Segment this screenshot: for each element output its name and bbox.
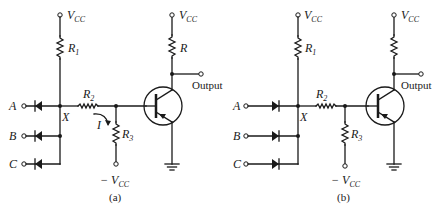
- output-terminal-a[interactable]: [199, 72, 203, 76]
- panel-b: VCC R1 X A B C: [232, 8, 432, 204]
- transistor-b: [366, 87, 404, 125]
- diode-c: [35, 159, 42, 169]
- r1-label: R1: [67, 41, 79, 57]
- input-c-label: C: [9, 157, 18, 171]
- input-b-label-b: B: [233, 129, 241, 143]
- input-a-label-b: A: [232, 99, 241, 113]
- neg-vcc-label-b: − VCC: [331, 173, 361, 189]
- vcc-label-left: VCC: [67, 8, 86, 24]
- resistor-rc-b: [391, 35, 397, 58]
- output-label-a: Output: [192, 79, 223, 91]
- caption-a: (a): [109, 191, 122, 204]
- junction-b-b: [296, 134, 300, 138]
- diode-b: [35, 131, 42, 141]
- ground-symbol-b: [387, 164, 401, 170]
- diode-c-b: [272, 159, 279, 169]
- r2-label: R2: [82, 87, 94, 103]
- rc-label: R: [179, 41, 188, 55]
- output-label-b: Output: [401, 79, 432, 91]
- r2-label-b: R2: [315, 87, 327, 103]
- vcc-label-right-b: VCC: [401, 8, 420, 24]
- transistor-a: [144, 87, 182, 125]
- circuit-figure: VCC R1 X A B C: [0, 0, 441, 211]
- vcc-terminal-right-a: [170, 13, 174, 17]
- input-a-label: A: [8, 99, 17, 113]
- neg-vcc-terminal-a: [114, 162, 118, 166]
- neg-vcc-terminal-b: [343, 164, 347, 168]
- r1-label-b: R1: [304, 41, 316, 57]
- resistor-r3-b: [342, 122, 348, 145]
- diode-b-b: [272, 131, 279, 141]
- resistor-r2-b: [316, 104, 336, 108]
- caption-b: (b): [337, 191, 350, 204]
- current-label: I: [96, 118, 102, 132]
- output-terminal-b[interactable]: [419, 72, 423, 76]
- node-x-label: X: [61, 110, 70, 124]
- resistor-r3: [113, 122, 119, 145]
- panel-a: VCC R1 X A B C: [8, 8, 223, 204]
- node-x-label-b: X: [299, 110, 308, 124]
- diode-a-b: [272, 101, 279, 111]
- resistor-r1: [57, 36, 63, 59]
- vcc-label-right-a: VCC: [179, 8, 198, 24]
- input-b-label: B: [9, 129, 17, 143]
- resistor-r1-b: [295, 36, 301, 59]
- ground-symbol-a: [165, 164, 179, 170]
- neg-vcc-label-a: − VCC: [100, 173, 130, 189]
- vcc-label-left-b: VCC: [304, 8, 323, 24]
- junction-b: [58, 134, 62, 138]
- resistor-rc: [169, 35, 175, 58]
- input-c-label-b: C: [233, 157, 242, 171]
- diode-a: [35, 101, 42, 111]
- r3-label: R3: [121, 127, 133, 143]
- r3-label-b: R3: [350, 127, 362, 143]
- resistor-r2: [78, 104, 98, 108]
- vcc-terminal-right-b: [392, 13, 396, 17]
